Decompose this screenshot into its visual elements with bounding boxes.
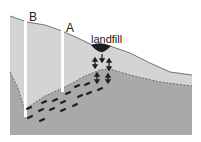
- landfill-label: landfill: [91, 34, 122, 45]
- well-a-label: A: [66, 22, 74, 34]
- well-b: [24, 16, 27, 117]
- well-a: [61, 29, 64, 92]
- well-b-label: B: [29, 11, 37, 23]
